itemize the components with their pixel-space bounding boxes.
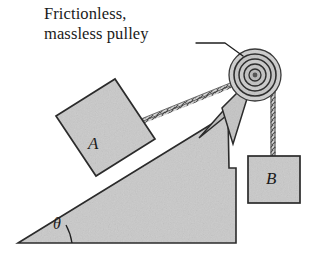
physics-diagram-figure: Frictionless, massless pulley A B θ [0,0,314,253]
caption-leader-line [196,43,243,56]
frictionless-massless-pulley [229,49,281,101]
block-b-hanging [248,156,300,203]
diagram-canvas [0,0,314,253]
block-a-on-incline [56,79,155,176]
